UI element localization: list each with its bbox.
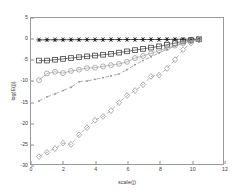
data-point-dot [158, 52, 160, 54]
data-point-diamond [52, 146, 57, 152]
data-point-star [52, 38, 57, 42]
data-point-dot [78, 81, 80, 83]
y-tick-mark [31, 60, 34, 61]
y-tick-label: -5 [23, 58, 28, 63]
data-point-dot [134, 64, 136, 66]
data-point-star [132, 37, 137, 41]
data-point-dot [174, 45, 176, 47]
data-point-star [100, 37, 105, 41]
data-point-dot [102, 77, 104, 79]
x-tick-label: 12 [222, 167, 228, 172]
data-point-star [92, 37, 97, 41]
series-series-1 [36, 37, 201, 42]
data-point-dot [110, 75, 112, 77]
data-point-dot [118, 73, 120, 75]
data-point-star [140, 37, 145, 41]
figure-panel: 50-5-10-15-20-25-30 024681012 log(E(j)) … [0, 0, 243, 196]
data-point-dot [54, 93, 56, 95]
data-point-dot [62, 90, 64, 92]
x-tick-label: 6 [127, 167, 130, 172]
data-point-dot [94, 78, 96, 80]
x-tick-mark [225, 161, 226, 164]
y-axis-label: log(E(j)) [10, 81, 16, 100]
data-point-dot [150, 56, 152, 58]
x-tick-mark [128, 161, 129, 164]
y-tick-mark [31, 81, 34, 82]
data-point-dot [142, 60, 144, 62]
series-series-5 [36, 37, 201, 159]
series-line [39, 40, 199, 156]
data-point-star [116, 37, 121, 41]
data-point-dot [38, 100, 40, 102]
x-axis-label: scale(j) [30, 179, 224, 185]
data-point-star [148, 37, 153, 41]
y-tick-label: 0 [25, 37, 28, 42]
data-point-star [124, 37, 129, 41]
data-point-dot [46, 96, 48, 98]
data-point-diamond [132, 88, 137, 94]
data-point-star [36, 38, 41, 42]
y-tick-mark [31, 18, 34, 19]
y-tick-mark [31, 123, 34, 124]
x-tick-mark [192, 161, 193, 164]
x-tick-mark [95, 161, 96, 164]
data-point-dot [70, 86, 72, 88]
data-point-star [156, 37, 161, 41]
data-point-dot [182, 42, 184, 44]
data-point-dot [126, 69, 128, 71]
chart-canvas [31, 18, 223, 164]
data-point-dot [166, 48, 168, 50]
data-point-star [76, 37, 81, 41]
y-tick-mark [31, 102, 34, 103]
x-tick-label: 8 [159, 167, 162, 172]
data-point-star [60, 37, 65, 41]
x-tick-label: 10 [190, 167, 196, 172]
x-tick-label: 0 [30, 167, 33, 172]
data-point-star [68, 37, 73, 41]
x-tick-mark [160, 161, 161, 164]
x-tick-mark [63, 161, 64, 164]
data-point-star [164, 37, 169, 41]
y-tick-label: 5 [25, 15, 28, 20]
series-series-3 [37, 37, 202, 82]
y-tick-mark [31, 144, 34, 145]
x-tick-mark [31, 161, 32, 164]
plot-area: 50-5-10-15-20-25-30 024681012 [30, 17, 224, 165]
x-tick-label: 4 [94, 167, 97, 172]
y-axis-label-wrap: log(E(j)) [11, 0, 23, 196]
y-tick-mark [31, 39, 34, 40]
data-point-star [44, 38, 49, 42]
data-point-star [84, 37, 89, 41]
data-point-star [108, 37, 113, 41]
data-point-dot [86, 80, 88, 82]
x-tick-label: 2 [62, 167, 65, 172]
